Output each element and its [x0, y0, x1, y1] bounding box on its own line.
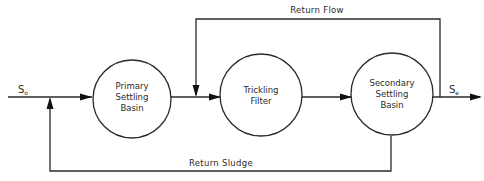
return-flow-label: Return Flow	[290, 5, 344, 15]
output-arrow-icon	[470, 94, 482, 101]
return-sludge-arrow-icon	[47, 97, 54, 109]
output-subscript: e	[455, 89, 459, 96]
primary-label-line-1: Primary	[116, 81, 149, 91]
node-primary-settling-basin: Primary Settling Basin	[93, 60, 171, 138]
secondary-label-line-2: Settling	[376, 89, 409, 99]
input-variable-label: So	[18, 84, 28, 96]
input-subscript: o	[24, 89, 28, 96]
trickling-label-line-2: Filter	[250, 96, 272, 106]
input-arrow-icon	[80, 94, 92, 101]
return-sludge-label: Return Sludge	[189, 158, 253, 168]
primary-label-line-2: Settling	[116, 92, 149, 102]
node-trickling-filter: Trickling Filter	[220, 54, 302, 136]
trickling-to-secondary-arrow-icon	[340, 94, 352, 101]
output-variable-label: Se	[449, 84, 459, 96]
trickling-label-line-1: Trickling	[243, 85, 279, 95]
secondary-label-line-1: Secondary	[369, 78, 414, 88]
node-secondary-settling-basin: Secondary Settling Basin	[351, 53, 433, 135]
return-flow-arrow-icon	[193, 85, 200, 97]
flow-diagram: Primary Settling Basin Trickling Filter …	[0, 0, 484, 181]
primary-to-trickling-arrow-icon	[209, 94, 221, 101]
primary-label-line-3: Basin	[120, 103, 143, 113]
secondary-label-line-3: Basin	[380, 100, 403, 110]
